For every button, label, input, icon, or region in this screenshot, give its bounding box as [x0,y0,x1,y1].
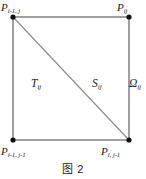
region-label-triangle-upper-subscript: ij [98,83,102,91]
region-label-triangle-upper: Sij [92,78,102,90]
vertex-label-bottom-left-base: P [1,145,8,157]
region-label-omega-subscript: ij [137,83,141,91]
vertex-label-top-right: Pij [117,2,127,13]
vertex-dot-bottom-right [126,137,131,142]
vertex-label-top-left: Pi-1, j [1,2,20,13]
vertex-label-bottom-right-subscript: i, j-1 [108,151,120,158]
region-label-triangle-lower-subscript: ij [37,83,41,91]
vertex-label-bottom-left-subscript: i-1, j-1 [8,151,26,158]
vertex-label-top-left-subscript: i-1, j [8,7,20,14]
vertex-dot-top-right [126,14,131,19]
vertex-label-top-left-base: P [1,1,8,13]
vertex-label-bottom-left: Pi-1, j-1 [1,146,25,157]
figure-caption: 图 2 [0,160,146,176]
vertex-dot-bottom-left [10,137,15,142]
vertex-dot-top-left [10,14,15,19]
region-label-triangle-lower: Tij [31,78,41,90]
region-label-omega: Ωij [129,78,141,90]
vertex-label-bottom-right-base: P [101,145,108,157]
vertex-label-bottom-right: Pi, j-1 [101,146,120,157]
region-label-triangle-upper-base: S [92,77,98,89]
figure-container: Pi-1, j Pij Pi-1, j-1 Pi, j-1 Tij Sij Ωi… [0,0,146,179]
vertex-label-top-right-subscript: ij [124,7,128,14]
vertex-label-top-right-base: P [117,1,124,13]
